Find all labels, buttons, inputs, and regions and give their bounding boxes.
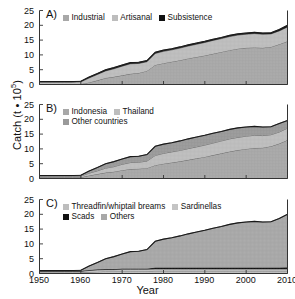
y-tick-label: 0: [29, 80, 34, 89]
legend-row: Threadfin/whiptail breams Sardinellas: [63, 202, 228, 212]
panel-legend: Industrial Artisanal Subsistence: [63, 13, 219, 23]
panel-tag: A): [46, 8, 57, 20]
y-tick-label: 25: [24, 100, 34, 109]
legend-row: Other countries: [63, 117, 161, 127]
legend-entry-label: Other countries: [72, 117, 128, 126]
figure-root: Catch (t • 105) Year 0510152025 A) Indus…: [0, 0, 295, 299]
legend-entry-label: Subsistence: [168, 13, 213, 22]
y-axis-label-exponent: 5: [9, 84, 18, 88]
legend-entry[interactable]: Industrial: [63, 13, 105, 23]
legend-entry-label: Indonesia: [72, 107, 108, 116]
y-tick-label: 25: [24, 6, 34, 15]
panel-legend: Indonesia Thailand Other countries: [63, 107, 161, 127]
y-tick-label: 20: [24, 21, 34, 30]
x-tick-label: 1950: [29, 275, 49, 285]
x-tick-label: 2000: [236, 275, 256, 285]
x-tick-label: 1980: [153, 275, 173, 285]
legend-swatch-icon: [114, 109, 120, 115]
legend-swatch-icon: [63, 204, 69, 210]
legend-swatch-icon: [112, 15, 118, 21]
legend-entry-label: Threadfin/whiptail breams: [72, 202, 166, 211]
area-band-texture: [40, 214, 288, 271]
legend-swatch-icon: [63, 214, 69, 220]
legend-swatch-icon: [172, 204, 178, 210]
panel-tag: B): [46, 102, 57, 114]
x-tick-label: 1970: [112, 275, 132, 285]
legend-entry[interactable]: Other countries: [63, 117, 127, 127]
legend-entry-label: Thailand: [123, 107, 154, 116]
y-tick-label: 5: [29, 65, 34, 74]
legend-entry[interactable]: Sardinellas: [172, 202, 221, 212]
legend-entry[interactable]: Indonesia: [63, 107, 107, 117]
legend-row: Industrial Artisanal Subsistence: [63, 13, 219, 23]
legend-swatch-icon: [63, 119, 69, 125]
x-tick-label: 1960: [70, 275, 90, 285]
y-tick-labels: 0510152025: [0, 104, 36, 178]
legend-entry[interactable]: Threadfin/whiptail breams: [63, 202, 165, 212]
y-tick-label: 15: [24, 36, 34, 45]
legend-entry-label: Scads: [72, 212, 95, 221]
y-tick-label: 20: [24, 115, 34, 124]
legend-entry-label: Artisanal: [120, 13, 152, 22]
y-tick-label: 15: [24, 130, 34, 139]
legend-entry[interactable]: Subsistence: [159, 13, 212, 23]
legend-entry-label: Industrial: [72, 13, 105, 22]
legend-entry[interactable]: Thailand: [114, 107, 154, 117]
y-tick-label: 10: [24, 239, 34, 248]
legend-swatch-icon: [101, 214, 107, 220]
y-tick-label: 25: [24, 195, 34, 204]
y-tick-label: 10: [24, 50, 34, 59]
legend-row: Scads Others: [63, 212, 228, 222]
legend-entry[interactable]: Others: [101, 212, 134, 222]
y-tick-label: 0: [29, 174, 34, 183]
panel-legend: Threadfin/whiptail breams Sardinellas Sc…: [63, 202, 228, 222]
y-tick-label: 10: [24, 144, 34, 153]
x-tick-label-row: 1950196019701980199020002010: [0, 275, 295, 287]
y-tick-label: 5: [29, 254, 34, 263]
x-tick-label: 1990: [194, 275, 214, 285]
legend-entry-label: Others: [110, 212, 135, 221]
legend-swatch-icon: [63, 15, 69, 21]
legend-row: Indonesia Thailand: [63, 107, 161, 117]
panel-tag: C): [46, 197, 58, 209]
legend-swatch-icon: [159, 15, 165, 21]
y-tick-label: 20: [24, 210, 34, 219]
y-tick-label: 15: [24, 225, 34, 234]
y-tick-label: 5: [29, 159, 34, 168]
legend-entry-label: Sardinellas: [181, 202, 222, 211]
legend-swatch-icon: [63, 109, 69, 115]
y-tick-labels: 0510152025: [0, 10, 36, 84]
x-tick-label: 2010: [277, 275, 295, 285]
legend-entry[interactable]: Scads: [63, 212, 94, 222]
y-tick-labels: 0510152025: [0, 199, 36, 273]
legend-entry[interactable]: Artisanal: [112, 13, 152, 23]
